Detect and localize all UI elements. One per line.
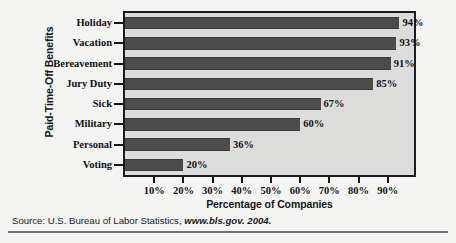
source-note: Source: U.S. Bureau of Labor Statistics,…: [12, 215, 271, 226]
plot-area: [123, 11, 416, 177]
value-label: 85%: [376, 79, 397, 89]
x-axis-tick: [358, 177, 360, 183]
value-label: 91%: [394, 59, 415, 69]
bar: [125, 138, 230, 151]
source-prefix: Source: U.S. Bureau of Labor Statistics,: [12, 215, 182, 226]
y-axis-tick: [114, 42, 123, 44]
bar: [125, 57, 391, 70]
x-axis-tick: [328, 177, 330, 183]
chart-figure: Paid-Time-Off Benefits HolidayVacationBe…: [0, 0, 456, 243]
y-axis-tick: [114, 83, 123, 85]
category-label: Military: [44, 119, 112, 129]
bar: [125, 78, 373, 91]
category-axis-labels: HolidayVacationBereavementJury DutySickM…: [44, 0, 112, 200]
category-label: Sick: [44, 99, 112, 109]
y-axis-tick: [114, 63, 123, 65]
bar: [125, 118, 300, 131]
value-label: 94%: [402, 18, 423, 28]
y-axis-tick: [114, 22, 123, 24]
category-label: Jury Duty: [44, 79, 112, 89]
category-label: Holiday: [44, 18, 112, 28]
bottom-divider: [8, 231, 448, 233]
x-axis-title: Percentage of Companies: [123, 198, 416, 210]
category-label: Personal: [44, 140, 112, 150]
bar: [125, 159, 183, 172]
value-label: 60%: [303, 119, 324, 129]
bar: [125, 37, 396, 50]
y-axis-tick: [114, 123, 123, 125]
value-label: 20%: [186, 160, 207, 170]
value-label: 93%: [399, 38, 420, 48]
category-label: Bereavement: [44, 59, 112, 69]
y-axis-tick: [114, 103, 123, 105]
value-label: 36%: [233, 140, 254, 150]
x-axis-tick: [153, 177, 155, 183]
x-axis-tick: [212, 177, 214, 183]
category-label: Vacation: [44, 38, 112, 48]
x-axis-tick-label: 90%: [371, 185, 405, 196]
x-axis-tick: [241, 177, 243, 183]
category-label: Voting: [44, 160, 112, 170]
y-axis-tick: [114, 144, 123, 146]
x-axis-tick: [387, 177, 389, 183]
x-axis-tick: [270, 177, 272, 183]
bar: [125, 98, 321, 111]
y-axis-tick: [114, 164, 123, 166]
value-label: 67%: [324, 99, 345, 109]
x-axis-tick: [299, 177, 301, 183]
bars-container: [125, 13, 414, 175]
source-citation: www.bls.gov. 2004.: [184, 215, 271, 226]
x-axis-tick: [182, 177, 184, 183]
bar: [125, 17, 399, 30]
